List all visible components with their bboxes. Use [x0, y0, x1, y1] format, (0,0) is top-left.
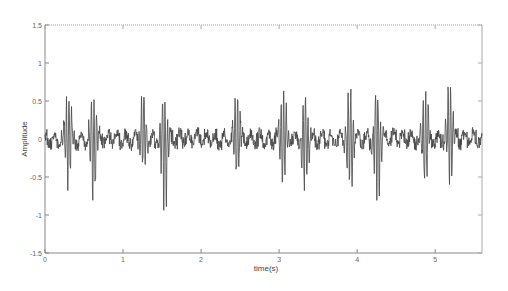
y-tick-label: 1.5	[32, 22, 42, 29]
y-tick-label: 1	[38, 60, 42, 67]
x-tick-label: 1	[121, 256, 125, 263]
signal-waveform	[45, 87, 482, 210]
y-tick-label: -1.5	[30, 250, 42, 257]
x-tick-label: 2	[199, 256, 203, 263]
amplitude-chart: 0123451.510.50-0.5-1-1.5 time(s) Amplitu…	[0, 0, 508, 291]
y-tick-label: -1	[36, 212, 42, 219]
signal-line	[45, 87, 482, 210]
x-tick-label: 4	[355, 256, 359, 263]
x-axis-label: time(s)	[254, 264, 279, 273]
y-tick-label: 0.5	[32, 98, 42, 105]
x-tick-label: 0	[43, 256, 47, 263]
x-tick-label: 3	[277, 256, 281, 263]
y-tick-label: -0.5	[30, 174, 42, 181]
x-tick-label: 5	[433, 256, 437, 263]
y-tick-label: 0	[38, 136, 42, 143]
y-axis-label: Amplitude	[20, 121, 29, 157]
